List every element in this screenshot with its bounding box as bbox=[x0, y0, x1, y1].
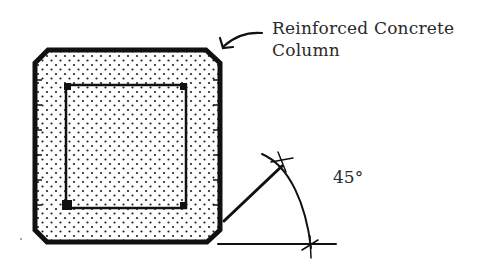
speck bbox=[20, 238, 22, 240]
angle-construction bbox=[218, 152, 336, 258]
arc bbox=[262, 154, 311, 248]
corner-bar-bottom-left bbox=[62, 200, 72, 210]
diagonal-45 bbox=[224, 166, 282, 221]
angle-label: 45° bbox=[333, 167, 363, 187]
column-label-line1: Reinforced Concrete bbox=[272, 17, 454, 39]
column-label: Reinforced Concrete Column bbox=[272, 17, 454, 61]
column-cross-section bbox=[35, 50, 220, 242]
corner-bar-top-right bbox=[180, 83, 187, 90]
corner-bar-top-left bbox=[64, 83, 71, 90]
corner-bar-bottom-right bbox=[180, 202, 187, 209]
column-label-line2: Column bbox=[272, 39, 454, 61]
tick-lower-2 bbox=[310, 236, 311, 258]
label-arrow bbox=[220, 33, 262, 48]
